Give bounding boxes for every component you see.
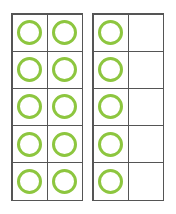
frame-cell [47,125,83,163]
frame-cell [47,88,83,126]
circle-counter-icon [17,94,42,119]
ten-frame-2 [92,13,164,201]
frame-cell [12,125,48,163]
frame-cell [93,51,129,89]
frame-cell [12,162,48,200]
circle-counter-icon [52,169,77,194]
circle-counter-icon [98,169,123,194]
circle-counter-icon [98,57,123,82]
frame-cell [128,125,164,163]
circle-counter-icon [52,94,77,119]
frame-cell [93,88,129,126]
frame-cell [47,51,83,89]
ten-frame-1 [11,13,83,201]
frame-cell [93,162,129,200]
circle-counter-icon [17,20,42,45]
frame-cell [12,14,48,52]
circle-counter-icon [52,20,77,45]
frame-cell [47,14,83,52]
frame-cell [93,14,129,52]
circle-counter-icon [52,132,77,157]
frame-cell [128,51,164,89]
frame-cell [12,88,48,126]
circle-counter-icon [98,20,123,45]
frame-cell [128,88,164,126]
circle-counter-icon [17,169,42,194]
frame-cell [12,51,48,89]
frame-cell [47,162,83,200]
frame-cell [93,125,129,163]
frame-cell [128,162,164,200]
circle-counter-icon [98,94,123,119]
frame-cell [128,14,164,52]
circle-counter-icon [17,57,42,82]
circle-counter-icon [98,132,123,157]
circle-counter-icon [17,132,42,157]
circle-counter-icon [52,57,77,82]
